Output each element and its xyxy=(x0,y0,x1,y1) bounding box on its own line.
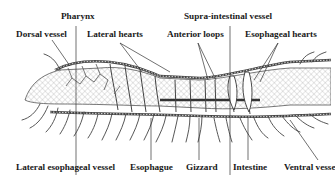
label-pharynx: Pharynx xyxy=(61,12,95,21)
label-supra-intestinal-vessel: Supra-intestinal vessel xyxy=(184,12,272,21)
label-gizzard: Gizzard xyxy=(186,163,218,172)
gut-body xyxy=(25,67,331,108)
label-esophague: Esophague xyxy=(130,163,173,172)
label-lateral-hearts: Lateral hearts xyxy=(87,30,143,39)
ventral-vessel-line xyxy=(50,112,331,117)
label-lateral-esophageal-vessel: Lateral esophageal vessel xyxy=(16,163,115,172)
label-esophageal-hearts: Esophageal hearts xyxy=(245,30,317,39)
label-dorsal-vessel: Dorsal vessel xyxy=(16,30,67,39)
label-anterior-loops: Anterior loops xyxy=(167,30,224,39)
label-ventral-vessel: Ventral vesse xyxy=(284,163,335,172)
label-intestine: Intestine xyxy=(233,163,267,172)
